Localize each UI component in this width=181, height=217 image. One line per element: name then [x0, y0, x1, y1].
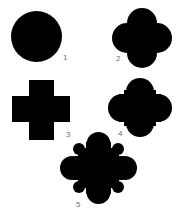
shape-3-cross: [12, 80, 70, 140]
shape-1-label: 1: [63, 53, 68, 62]
shape-4-label: 4: [118, 129, 123, 138]
shape-1-circle: [11, 11, 62, 62]
shape-3-label: 3: [66, 130, 71, 139]
shape-2-quatrefoil: [112, 8, 172, 68]
shape-5-compound-quatrefoil: [60, 132, 137, 204]
shape-2-label: 2: [116, 54, 121, 63]
shape-sequence-diagram: 1 2 3 4: [0, 0, 181, 217]
shape-5-label: 5: [76, 200, 81, 209]
